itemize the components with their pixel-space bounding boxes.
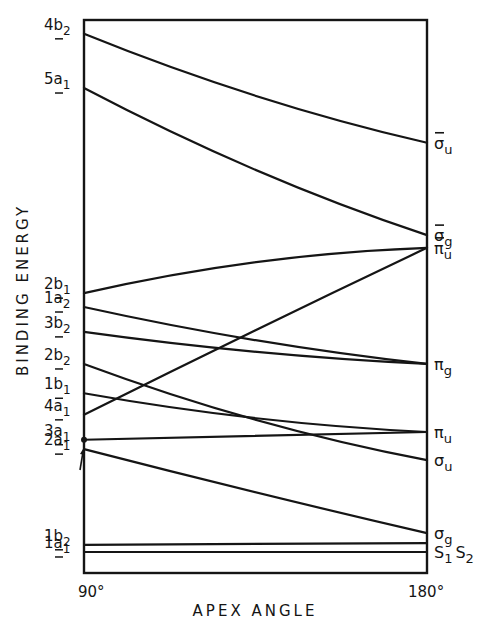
orbital-curve-1b2 (84, 543, 427, 545)
right-label-4b2: σu (434, 134, 452, 157)
orbital-curve-4a1 (84, 248, 427, 415)
orbital-curve-3a1 (84, 432, 427, 440)
y-axis-title: BINDING ENERGY (14, 204, 32, 376)
curves-group (81, 34, 427, 552)
right-label-1b1: πu (434, 423, 452, 446)
left-label-4b2: 4b2 (44, 16, 71, 38)
orbital-curve-5a1 (84, 88, 427, 235)
x-tick-180: 180° (408, 583, 444, 601)
walsh-diagram: 4b25a12b11a23b22b21b14a13a12a11b21a1 σuσ… (0, 0, 499, 640)
left-label-4a1: 4a1 (44, 397, 70, 419)
left-label-5a1: 5a1 (44, 70, 70, 92)
degenerate-arrow (80, 452, 83, 470)
orbital-curve-4b2 (84, 34, 427, 143)
orbital-curve-1a2 (84, 307, 427, 364)
right-label-1a1: S1S2 (434, 543, 474, 566)
right-label-1a2: πg (434, 355, 452, 378)
right-labels-group: σuσgπuπgσuπuσgS1S2 (434, 133, 474, 566)
right-label-2b2: σu (434, 451, 452, 474)
degenerate-dot (81, 437, 87, 443)
orbital-curve-1b1 (84, 393, 427, 432)
x-axis-title: APEX ANGLE (193, 602, 318, 620)
left-labels-group: 4b25a12b11a23b22b21b14a13a12a11b21a1 (44, 16, 71, 557)
x-tick-90: 90° (78, 583, 105, 601)
left-label-1b1: 1b1 (44, 375, 71, 397)
left-label-2b2: 2b2 (44, 346, 71, 368)
orbital-curve-2b1 (84, 248, 427, 293)
plot-frame (84, 20, 427, 573)
orbital-curve-2b2 (84, 364, 427, 460)
orbital-curve-2a1 (84, 449, 427, 533)
orbital-curve-3b2 (84, 332, 427, 364)
left-label-3b2: 3b2 (44, 314, 71, 336)
